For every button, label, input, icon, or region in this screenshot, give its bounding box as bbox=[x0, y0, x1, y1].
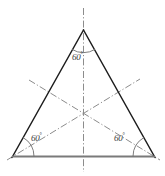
angle-label-bottom-right: 60° bbox=[114, 131, 125, 143]
triangle-diagram-svg bbox=[0, 0, 165, 176]
figure-root: 60° 60° 60° bbox=[0, 0, 165, 176]
angle-label-apex: 60° bbox=[72, 50, 83, 62]
symmetry-axis-from-bottom-left bbox=[7, 79, 140, 160]
symmetry-axes-group bbox=[7, 8, 160, 172]
degree-symbol-bottom-left: ° bbox=[40, 132, 42, 138]
angle-label-bottom-left: 60° bbox=[31, 131, 42, 143]
degree-symbol-apex: ° bbox=[81, 51, 83, 57]
angle-label-bottom-left-value: 60 bbox=[31, 133, 40, 143]
angle-label-apex-value: 60 bbox=[72, 52, 81, 62]
degree-symbol-bottom-right: ° bbox=[123, 132, 125, 138]
angle-label-bottom-right-value: 60 bbox=[114, 133, 123, 143]
